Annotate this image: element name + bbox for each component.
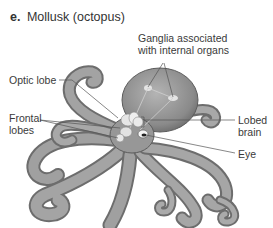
label-frontal-lobes: Frontal lobes [9,112,42,136]
label-frontal-line2: lobes [9,124,42,136]
label-lobed-brain: Lobed brain [238,114,267,138]
label-ganglia: Ganglia associated with internal organs [138,32,229,56]
label-frontal-line1: Frontal [9,112,42,124]
label-lobed-line1: Lobed [238,114,267,126]
label-ganglia-line2: with internal organs [138,44,229,56]
label-lobed-line2: brain [238,126,267,138]
label-ganglia-line1: Ganglia associated [138,32,229,44]
label-optic-lobe: Optic lobe [9,74,56,86]
label-eye: Eye [238,148,256,160]
